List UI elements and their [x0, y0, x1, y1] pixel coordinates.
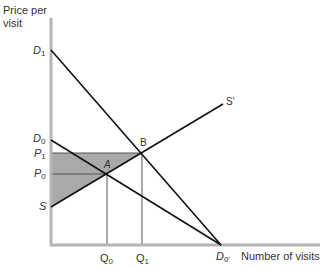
label-q1-text: Q	[136, 252, 145, 264]
demand-curve-d1	[51, 50, 221, 245]
label-d0-sub: 0	[41, 137, 45, 146]
label-p0-sub: 0	[41, 172, 45, 181]
label-d0-text: D	[33, 132, 41, 144]
y-axis-label: Price per visit	[3, 4, 47, 30]
label-d0-prime: D0'	[216, 251, 230, 264]
label-point-a: A	[104, 160, 111, 170]
label-p0: P0	[34, 168, 46, 181]
label-d0prime-sub: 0'	[224, 255, 230, 264]
label-point-b: B	[140, 138, 147, 148]
label-d1-text: D	[33, 44, 41, 56]
x-axis-label: Number of visits	[241, 251, 320, 262]
label-s-prime: S'	[226, 97, 235, 107]
label-d1: D1	[33, 45, 45, 58]
label-p1-sub: 1	[41, 152, 45, 161]
y-axis-label-line2: visit	[3, 17, 47, 30]
label-q0: Q0	[100, 253, 113, 266]
label-d0: D0	[33, 133, 45, 146]
label-p1: P1	[34, 148, 46, 161]
label-q0-text: Q	[100, 252, 109, 264]
y-axis-label-line1: Price per	[3, 4, 47, 17]
label-d1-sub: 1	[41, 49, 45, 58]
label-s: S	[39, 201, 46, 212]
label-q1: Q1	[136, 253, 149, 266]
label-d0prime-text: D	[216, 250, 224, 262]
label-q0-sub: 0	[109, 257, 113, 266]
economics-diagram	[0, 0, 326, 269]
label-q1-sub: 1	[145, 257, 149, 266]
